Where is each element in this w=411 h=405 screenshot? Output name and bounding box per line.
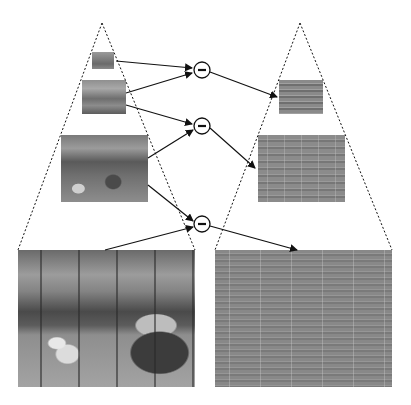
diagram-lines [0, 0, 411, 405]
subtract-operator-2 [194, 118, 210, 134]
subtract-operator-1 [194, 62, 210, 78]
arrow-g1-to-op2 [148, 130, 193, 158]
arrow-op3-to-l0 [210, 226, 297, 250]
arrow-g2-to-op2 [126, 105, 192, 124]
arrow-g2-to-op1 [126, 73, 192, 93]
arrow-op2-to-l1 [210, 128, 255, 168]
arrow-g3-to-op1 [116, 61, 192, 68]
arrow-g0-to-op3 [105, 227, 193, 250]
gaussian-pyramid-outline [18, 23, 195, 250]
laplacian-pyramid-outline [215, 23, 392, 250]
subtract-operator-3 [194, 216, 210, 232]
arrow-op1-to-l2 [210, 72, 277, 97]
